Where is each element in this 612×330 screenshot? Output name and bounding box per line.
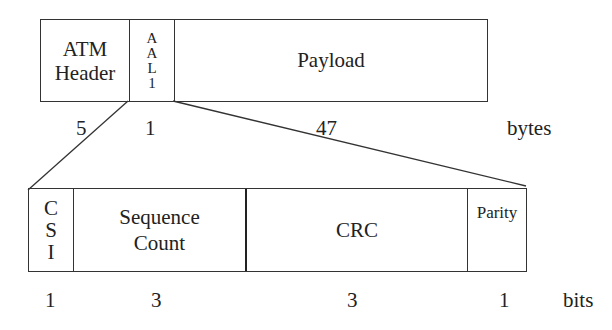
aal1-header-box: C S I Sequence Count CRC Parity (28, 188, 527, 272)
csi-label-3: I (48, 241, 55, 263)
bytes-unit: bytes (507, 116, 551, 141)
atm-header-label-1: ATM (63, 37, 107, 61)
aal1-label-4: 1 (148, 76, 156, 91)
parity-size: 1 (499, 288, 510, 313)
bits-unit: bits (563, 288, 593, 313)
parity-field: Parity (467, 189, 526, 271)
payload-size: 47 (316, 116, 337, 141)
csi-field: C S I (29, 189, 73, 271)
aal1-label-1: A (147, 31, 158, 46)
atm-header-label-2: Header (55, 61, 116, 85)
csi-size: 1 (45, 288, 56, 313)
crc-label: CRC (336, 218, 378, 243)
atm-header-size: 5 (76, 116, 87, 141)
crc-size: 3 (347, 288, 358, 313)
sequence-count-label-1: Sequence (119, 204, 199, 230)
sequence-count-size: 3 (151, 288, 162, 313)
aal1-label-2: A (147, 46, 158, 61)
csi-label-2: S (45, 219, 57, 241)
csi-label-1: C (44, 197, 58, 219)
payload-label: Payload (297, 48, 365, 73)
atm-header-field: ATM Header (41, 20, 129, 101)
atm-cell-box: ATM Header A A L 1 Payload (40, 19, 488, 102)
parity-label: Parity (477, 203, 518, 223)
aal1-field: A A L 1 (129, 20, 174, 101)
sequence-count-field: Sequence Count (73, 189, 245, 271)
crc-field: CRC (245, 189, 467, 271)
sequence-count-label-2: Count (134, 230, 185, 256)
payload-field: Payload (174, 20, 487, 101)
aal1-label-3: L (147, 61, 156, 76)
aal1-size: 1 (145, 116, 156, 141)
